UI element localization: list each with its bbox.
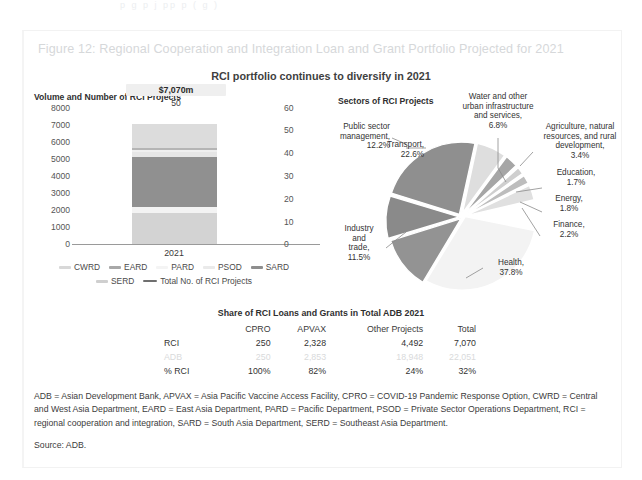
source-note: Source: ADB.: [34, 440, 86, 450]
legend-item-pard[interactable]: PARD: [156, 262, 194, 272]
legend-item-sard[interactable]: SARD: [251, 262, 289, 272]
legend-swatch-psod: [203, 266, 215, 269]
legend-swatch-sard: [251, 266, 263, 269]
y-tick-6000: 6000: [51, 137, 70, 147]
y-tick-0: 0: [65, 239, 70, 249]
cell-adb-cpro: 250: [224, 350, 275, 364]
pie-label-agriculture: Agriculture, natural resources, and rura…: [520, 122, 640, 161]
figure-page: p g p j pp p ( g ) Figure 12: Regional C…: [0, 0, 642, 480]
bar-plot-area: $7,070m 50: [74, 108, 274, 244]
bar-segment-cwrd: [132, 124, 217, 148]
pie-label-industry-trade: Industry and trade, 11.5%: [330, 224, 388, 263]
legend-swatch-cwrd: [59, 266, 71, 269]
cell-rci-other: 4,492: [330, 336, 427, 350]
legend-label-eard: EARD: [124, 262, 147, 272]
bar-segment-sard: [132, 157, 217, 207]
y-tick-4000: 4000: [51, 171, 70, 181]
legend-swatch-serd: [96, 280, 108, 283]
legend-item-eard[interactable]: EARD: [109, 262, 147, 272]
col-header-apvax: APVAX: [275, 322, 330, 336]
y-tick-5000: 5000: [51, 154, 70, 164]
legend-line-total-projects: [143, 280, 157, 282]
row-label-adb: ADB: [160, 350, 224, 364]
table-header-row: CPRO APVAX Other Projects Total: [160, 322, 480, 336]
bar-value-label: $7,070m: [126, 84, 226, 96]
y2-tick-40: 40: [284, 148, 294, 158]
cell-adb-other: 18,948: [330, 350, 427, 364]
pie-label-health: Health, 37.8%: [478, 258, 544, 277]
pie-chart: Transport, 22.6% Water and other urban i…: [320, 96, 642, 296]
col-header-blank: [160, 322, 224, 336]
bar-chart-legend: CWRD EARD PARD PSOD SARD SERD: [28, 262, 320, 290]
cell-pct-apvax: 82%: [275, 364, 330, 378]
legend-item-total-projects[interactable]: Total No. of RCI Projects: [143, 276, 252, 286]
pie-label-education: Education, 1.7%: [538, 168, 614, 187]
figure-subtitle: RCI portfolio continues to diversify in …: [0, 70, 642, 82]
legend-row-2: SERD Total No. of RCI Projects: [28, 276, 320, 286]
abbreviations-note: ADB = Asian Development Bank, APVAX = As…: [34, 390, 612, 430]
clipped-text-above: p g p j pp p ( g ): [0, 0, 642, 14]
legend-row-1: CWRD EARD PARD PSOD SARD: [28, 262, 320, 272]
legend-label-pard: PARD: [171, 262, 194, 272]
legend-label-psod: PSOD: [218, 262, 242, 272]
col-header-total: Total: [427, 322, 480, 336]
legend-label-serd: SERD: [111, 276, 134, 286]
row-label-rci: RCI: [160, 336, 224, 350]
legend-label-sard: SARD: [266, 262, 289, 272]
cell-pct-cpro: 100%: [224, 364, 275, 378]
y2-tick-10: 10: [284, 217, 294, 227]
table-row-pct-rci: % RCI 100% 82% 24% 32%: [160, 364, 480, 378]
cell-rci-cpro: 250: [224, 336, 275, 350]
table-row-rci: RCI 250 2,328 4,492 7,070: [160, 336, 480, 350]
pie-label-finance: Finance, 2.2%: [532, 220, 606, 239]
cell-pct-other: 24%: [330, 364, 427, 378]
stacked-bar-2021: [132, 124, 217, 244]
y2-tick-0: 0: [284, 239, 289, 249]
legend-swatch-eard: [109, 266, 121, 269]
cell-pct-total: 32%: [427, 364, 480, 378]
y-tick-3000: 3000: [51, 188, 70, 198]
pie-label-public-sector: Public sector management, 12.2%: [308, 122, 390, 151]
y-tick-7000: 7000: [51, 120, 70, 130]
legend-label-cwrd: CWRD: [74, 262, 100, 272]
cell-rci-total: 7,070: [427, 336, 480, 350]
y-tick-2000: 2000: [51, 205, 70, 215]
row-label-pct-rci: % RCI: [160, 364, 224, 378]
share-table-title: Share of RCI Loans and Grants in Total A…: [0, 308, 642, 318]
cell-rci-apvax: 2,328: [275, 336, 330, 350]
legend-item-serd[interactable]: SERD: [96, 276, 134, 286]
y2-tick-20: 20: [284, 194, 294, 204]
y2-tick-60: 60: [284, 103, 294, 113]
bar-chart: 8000 7000 6000 5000 4000 3000 2000 1000 …: [28, 108, 320, 258]
table-row-adb: ADB 250 2,853 18,948 22,051: [160, 350, 480, 364]
legend-item-psod[interactable]: PSOD: [203, 262, 242, 272]
cell-adb-total: 22,051: [427, 350, 480, 364]
bar-x-label: 2021: [74, 248, 274, 258]
y2-tick-30: 30: [284, 171, 294, 181]
bar-count-label: 50: [126, 98, 226, 108]
legend-label-total-projects: Total No. of RCI Projects: [160, 276, 252, 286]
legend-item-cwrd[interactable]: CWRD: [59, 262, 100, 272]
y2-tick-50: 50: [284, 125, 294, 135]
col-header-cpro: CPRO: [224, 322, 275, 336]
pie-label-energy: Energy, 1.8%: [534, 194, 604, 213]
cell-adb-apvax: 2,853: [275, 350, 330, 364]
legend-swatch-pard: [156, 266, 168, 269]
figure-title: Figure 12: Regional Cooperation and Inte…: [38, 42, 618, 56]
bar-segment-serd: [132, 213, 217, 244]
col-header-other-projects: Other Projects: [330, 322, 427, 336]
y-tick-8000: 8000: [51, 103, 70, 113]
y-tick-1000: 1000: [51, 222, 70, 232]
bar-y-axis-left: 8000 7000 6000 5000 4000 3000 2000 1000 …: [28, 108, 70, 248]
share-table: CPRO APVAX Other Projects Total RCI 250 …: [160, 322, 480, 378]
